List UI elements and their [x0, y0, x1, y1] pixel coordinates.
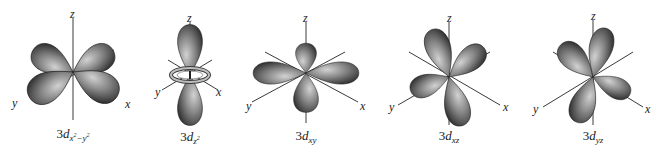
axis-label-x: x [215, 85, 222, 99]
axis-label-y: y [245, 99, 252, 113]
orbital-diagram: z y x z y x z y x [0, 0, 659, 155]
axis-label-x: x [644, 102, 651, 116]
axis-label-z: z [302, 11, 308, 25]
axis-label-x: x [502, 100, 509, 114]
label-sub: xz [452, 135, 460, 145]
orbital-dyz: z y x [532, 9, 651, 126]
label-3d-yz: 3dyz [583, 128, 604, 145]
axis-label-y: y [154, 85, 161, 99]
axis-label-y: y [388, 100, 395, 114]
label-sup: 2 [197, 135, 200, 141]
axis-label-z: z [69, 7, 75, 21]
axis-label-z: z [446, 11, 452, 25]
label-sub: xy [309, 135, 317, 145]
axis-label-y: y [532, 102, 539, 116]
axis-label-y: y [11, 96, 18, 110]
orbital-dxy: z y x [245, 11, 366, 123]
label-sup: 2 [87, 132, 90, 138]
label-3d-xz: 3dxz [439, 128, 460, 145]
lobe [306, 62, 359, 84]
orbital-dx2-y2: z y x [11, 7, 131, 120]
orbital-dxz: z y x [388, 11, 509, 129]
label-3d-z2: 3dz2 [180, 129, 200, 146]
axis-label-x: x [124, 97, 131, 111]
label-3d-xy: 3dxy [296, 128, 317, 145]
axis-label-z: z [590, 9, 596, 23]
axis-label-x: x [359, 99, 366, 113]
label-3d-x2-y2: 3dx2−y2 [56, 126, 89, 143]
label-sub: yz [596, 135, 604, 145]
axis-label-z: z [186, 11, 192, 25]
lobe [253, 62, 306, 84]
orbital-dz2: z y x [154, 11, 222, 125]
